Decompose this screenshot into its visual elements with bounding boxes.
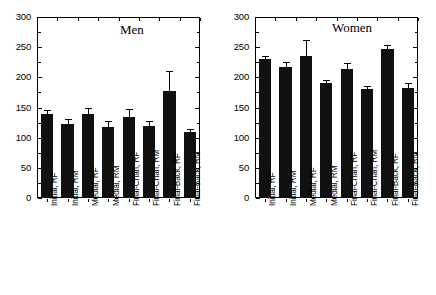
x-axis-label: Initial, RM [289,171,298,206]
error-bar-cap [105,121,112,122]
y-tick-major [38,17,42,18]
y-tick-major-right [195,47,199,48]
top-tick [255,18,256,21]
y-tick-minor-right [197,92,200,93]
y-tick-minor-right [415,62,418,63]
error-bar-cap [187,129,194,130]
error-bar-cap [303,40,310,41]
x-axis-label: Final-Chan, RM [152,150,161,206]
x-tick [265,199,266,202]
panel-title: Men [120,22,144,38]
error-bar-cap [344,63,351,64]
x-tick [149,199,150,202]
top-tick [296,18,297,21]
figure-two-panel-bar-chart: 050100150200250300Initial, RFInitial, RM… [0,0,436,295]
top-tick [200,18,201,21]
x-tick [190,199,191,202]
top-tick [98,18,99,21]
y-tick-major [38,47,42,48]
top-tick [119,18,120,21]
x-axis-label: Initial, RM [71,171,80,206]
top-tick [57,18,58,21]
error-bar-cap [166,71,173,72]
y-tick-label: 0 [5,193,31,203]
x-tick [367,199,368,202]
y-tick-minor [38,92,41,93]
error-bar-line [306,40,307,56]
x-tick [108,199,109,202]
error-bar-line [129,109,130,116]
error-bar-cap [85,108,92,109]
x-tick [306,199,307,202]
top-tick [37,18,38,21]
y-tick-minor-right [197,123,200,124]
top-tick [180,18,181,21]
y-tick-label: 250 [5,42,31,52]
y-tick-major-right [413,77,417,78]
y-tick-label: 100 [5,133,31,143]
y-tick-label: 50 [223,163,249,173]
y-tick-label: 200 [5,72,31,82]
x-axis-label: Medial, RM [112,166,121,206]
x-tick [88,199,89,202]
y-tick-major-right [413,17,417,18]
top-tick [398,18,399,21]
panel-title: Women [332,20,372,36]
x-tick [169,199,170,202]
y-tick-minor [38,62,41,63]
error-bar-cap [405,83,412,84]
x-tick [68,199,69,202]
top-tick [159,18,160,21]
top-tick [418,18,419,21]
y-tick-major [38,198,42,199]
y-tick-label: 150 [223,103,249,113]
y-tick-label: 250 [223,42,249,52]
x-axis-label: Medial, RF [91,167,100,206]
y-tick-label: 50 [5,163,31,173]
x-axis-label: Final-Chan, RF [350,152,359,206]
error-bar-cap [126,109,133,110]
y-tick-major-right [413,47,417,48]
x-tick [408,199,409,202]
y-tick-label: 200 [223,72,249,82]
y-tick-minor [256,32,259,33]
error-bar-cap [384,45,391,46]
top-tick [275,18,276,21]
y-tick-major-right [195,108,199,109]
error-bar-line [169,71,170,91]
y-tick-label: 300 [223,12,249,22]
x-axis-label: Initial, RF [50,173,59,206]
y-tick-label: 150 [5,103,31,113]
y-tick-minor-right [415,92,418,93]
x-axis-label: Final-Back, RF [173,153,182,206]
y-tick-minor [38,32,41,33]
y-tick-minor-right [197,32,200,33]
top-tick [139,18,140,21]
panel-women: 050100150200250300Initial, RFInitial, RM… [218,0,436,295]
y-tick-major [256,198,260,199]
y-tick-minor-right [415,123,418,124]
x-axis-label: Final-Back, RF [391,153,400,206]
x-tick [286,199,287,202]
error-bar-cap [364,86,371,87]
x-tick [129,199,130,202]
error-bar-cap [146,121,153,122]
y-tick-major [256,17,260,18]
y-tick-label: 300 [5,12,31,22]
error-bar-cap [262,56,269,57]
x-axis-label: Final-Chan, RM [370,150,379,206]
y-tick-label: 100 [223,133,249,143]
error-bar-cap [44,110,51,111]
panel-men: 050100150200250300Initial, RFInitial, RM… [0,0,218,295]
x-tick [387,199,388,202]
top-tick [316,18,317,21]
error-bar-cap [283,62,290,63]
y-tick-major-right [195,17,199,18]
x-axis-label: Final-Back, RM [193,151,202,206]
top-tick [377,18,378,21]
y-tick-major [256,47,260,48]
x-axis-label: Final-Back, RM [411,151,420,206]
x-axis-label: Medial, RM [330,166,339,206]
top-tick [78,18,79,21]
x-axis-label: Initial, RF [268,173,277,206]
